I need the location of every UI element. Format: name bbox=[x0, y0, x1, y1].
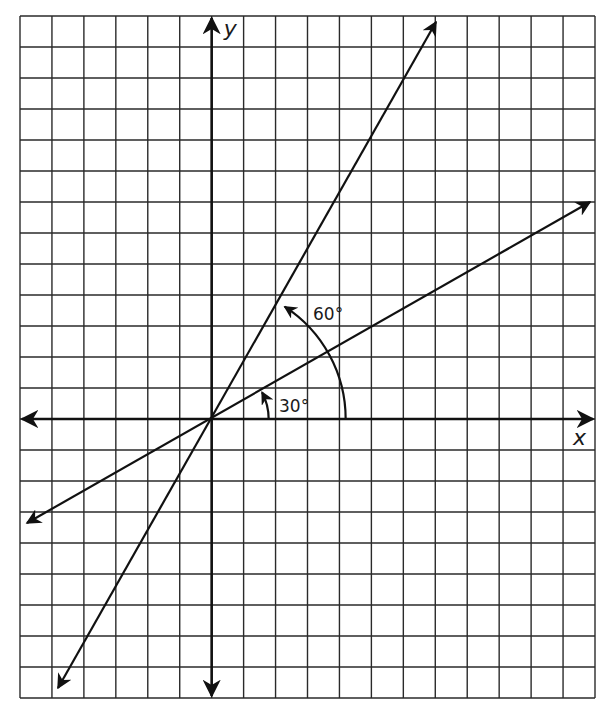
x-axis-label: x bbox=[572, 425, 587, 450]
angle-60-label: 60° bbox=[313, 304, 343, 324]
coordinate-plane-diagram: y x 30° 60° bbox=[0, 0, 613, 714]
angle-30-arc bbox=[262, 392, 269, 419]
y-axis-label: y bbox=[223, 16, 238, 41]
line-60-degrees bbox=[58, 22, 436, 688]
grid-lines bbox=[20, 16, 595, 698]
angle-lines bbox=[27, 22, 590, 688]
line-30-degrees bbox=[27, 202, 590, 523]
angle-30-label: 30° bbox=[279, 396, 309, 416]
